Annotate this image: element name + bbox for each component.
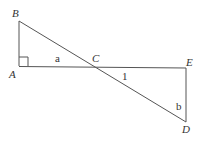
segment-bd bbox=[19, 21, 186, 122]
geometry-diagram: B A C E D a 1 b bbox=[0, 0, 203, 143]
point-label-d: D bbox=[181, 123, 190, 135]
point-label-c: C bbox=[92, 52, 100, 64]
angle-label-1: 1 bbox=[122, 70, 128, 82]
point-label-a: A bbox=[8, 68, 16, 80]
diagram-svg: B A C E D a 1 b bbox=[0, 0, 203, 143]
point-label-b: B bbox=[12, 7, 19, 19]
segment-ae bbox=[19, 67, 186, 69]
angle-label-a: a bbox=[55, 52, 60, 64]
right-angle-marker bbox=[19, 57, 28, 66]
angle-label-b: b bbox=[176, 100, 182, 112]
point-label-e: E bbox=[185, 56, 193, 68]
